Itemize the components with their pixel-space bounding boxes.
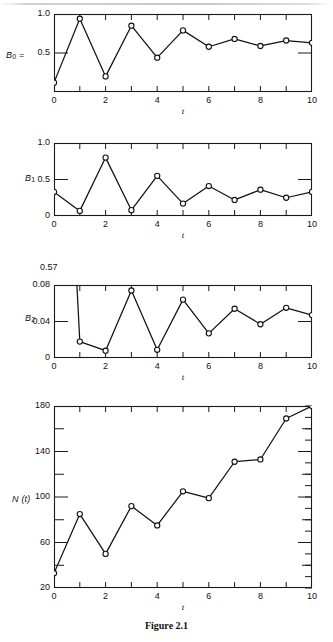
x-tick-label: 0 [44, 219, 64, 229]
x-tick-label: 2 [96, 95, 116, 105]
y-tick-label: 0.08 [32, 279, 50, 289]
y-tick-label: 1.0 [37, 137, 50, 147]
x-axis-name: t [173, 106, 193, 116]
x-tick-label: 8 [250, 361, 270, 371]
y-tick-label: 0.5 [37, 47, 50, 57]
chart-panel-b2: 00.040.080246810t [54, 285, 312, 358]
figure-2-1: 0.51.00246810t B0 = 00.51.00246810t B1 0… [0, 0, 333, 642]
plot-area-nt [54, 406, 312, 588]
y-tick-label: 140 [35, 446, 50, 456]
axis-label-b1: B1 [25, 173, 35, 183]
x-tick-label: 2 [96, 591, 116, 601]
figure-caption: Figure 2.1 [0, 620, 333, 631]
x-tick-label: 4 [147, 95, 167, 105]
x-tick-label: 4 [147, 591, 167, 601]
x-tick-label: 2 [96, 219, 116, 229]
x-tick-label: 10 [302, 219, 322, 229]
x-tick-label: 8 [250, 219, 270, 229]
y-tick-label: 180 [35, 400, 50, 410]
y-tick-label: 1.0 [37, 8, 50, 18]
x-axis-name: t [173, 602, 193, 612]
x-tick-label: 6 [199, 219, 219, 229]
x-axis-name: t [173, 230, 193, 240]
x-tick-label: 6 [199, 591, 219, 601]
axis-label-b0: B0 = [6, 50, 24, 60]
axis-label-nt-base: N (t) [12, 494, 31, 504]
x-tick-label: 0 [44, 591, 64, 601]
x-tick-label: 8 [250, 591, 270, 601]
x-tick-label: 10 [302, 591, 322, 601]
x-tick-label: 6 [199, 361, 219, 371]
axis-label-nt: N (t) [12, 494, 31, 504]
axis-label-b0-suffix: = [16, 50, 24, 60]
chart-panel-nt: 20601001401800246810t [54, 406, 312, 588]
x-tick-label: 0 [44, 95, 64, 105]
plot-area-b2 [54, 285, 312, 358]
y-tick-label: 0.5 [37, 174, 50, 184]
axis-label-b2-sub: 2 [31, 316, 35, 323]
x-tick-label: 4 [147, 361, 167, 371]
x-tick-label: 6 [199, 95, 219, 105]
x-axis-name: t [173, 372, 193, 382]
x-tick-label: 0 [44, 361, 64, 371]
x-tick-label: 10 [302, 95, 322, 105]
offscale-annotation-b2: 0.57 [40, 262, 58, 272]
axis-label-b1-sub: 1 [31, 176, 35, 183]
plot-area-b0 [54, 14, 312, 92]
y-tick-label: 60 [40, 537, 50, 547]
x-tick-label: 8 [250, 95, 270, 105]
chart-panel-b1: 00.51.00246810t [54, 143, 312, 216]
x-tick-label: 2 [96, 361, 116, 371]
axis-label-b2: B2 [25, 313, 35, 323]
chart-panel-b0: 0.51.00246810t [54, 14, 312, 92]
plot-area-b1 [54, 143, 312, 216]
y-tick-label: 100 [35, 491, 50, 501]
x-tick-label: 10 [302, 361, 322, 371]
x-tick-label: 4 [147, 219, 167, 229]
